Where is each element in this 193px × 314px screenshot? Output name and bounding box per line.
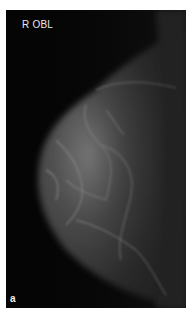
panel-label: a [10,293,16,304]
breast-tissue-graphic [6,10,186,308]
view-label: R OBL [22,19,53,30]
mammogram-image: R OBL a [6,10,186,308]
